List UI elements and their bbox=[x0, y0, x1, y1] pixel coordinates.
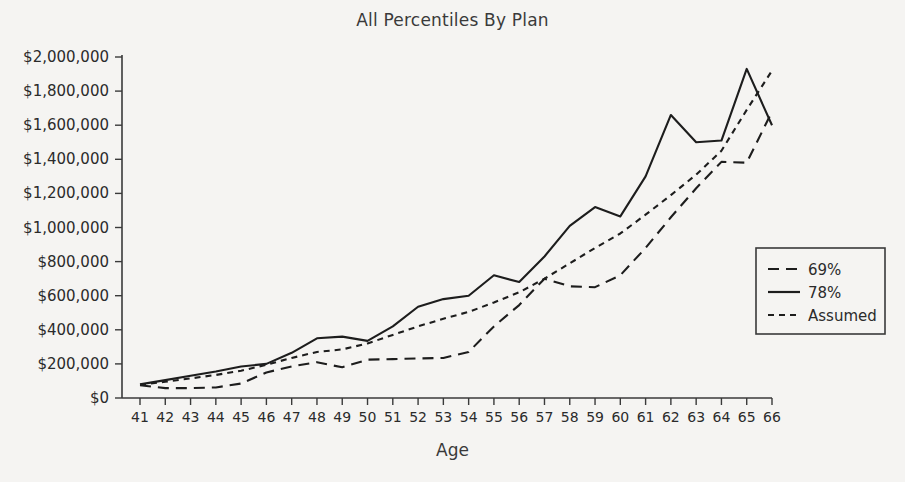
x-tick-label: 42 bbox=[156, 409, 174, 425]
x-tick-label: 54 bbox=[460, 409, 478, 425]
y-tick-label: $1,800,000 bbox=[23, 82, 109, 100]
series-line-69- bbox=[140, 112, 772, 389]
y-tick-label: $1,000,000 bbox=[23, 219, 109, 237]
x-tick-label: 45 bbox=[232, 409, 250, 425]
x-tick-label: 57 bbox=[536, 409, 554, 425]
series-line-78- bbox=[140, 69, 772, 384]
y-tick-label: $1,600,000 bbox=[23, 116, 109, 134]
legend-label-78-[interactable]: 78% bbox=[808, 284, 841, 302]
x-tick-label: 55 bbox=[485, 409, 503, 425]
y-tick-label: $2,000,000 bbox=[23, 48, 109, 66]
x-tick-label: 56 bbox=[510, 409, 528, 425]
line-chart: $0$200,000$400,000$600,000$800,000$1,000… bbox=[0, 0, 905, 482]
legend-label-assumed[interactable]: Assumed bbox=[808, 307, 877, 325]
x-tick-label: 41 bbox=[131, 409, 149, 425]
series-group bbox=[140, 69, 772, 388]
chart-container: All Percentiles By Plan $0$200,000$400,0… bbox=[0, 0, 905, 482]
y-axis-tick-group: $0$200,000$400,000$600,000$800,000$1,000… bbox=[23, 48, 122, 407]
x-tick-label: 48 bbox=[308, 409, 326, 425]
x-tick-label: 59 bbox=[586, 409, 604, 425]
x-tick-label: 43 bbox=[182, 409, 200, 425]
x-tick-label: 44 bbox=[207, 409, 225, 425]
x-tick-label: 63 bbox=[687, 409, 705, 425]
x-axis-tick-group: 4142434445464748495051525354555657585960… bbox=[131, 398, 781, 425]
legend-label-69-[interactable]: 69% bbox=[808, 261, 841, 279]
x-tick-label: 49 bbox=[333, 409, 351, 425]
chart-legend[interactable]: 69%78%Assumed bbox=[756, 248, 885, 334]
x-tick-label: 46 bbox=[257, 409, 275, 425]
x-tick-label: 51 bbox=[384, 409, 402, 425]
x-tick-label: 47 bbox=[283, 409, 301, 425]
x-tick-label: 60 bbox=[611, 409, 629, 425]
y-tick-label: $1,400,000 bbox=[23, 150, 109, 168]
x-axis-label: Age bbox=[0, 440, 905, 460]
y-tick-label: $600,000 bbox=[37, 287, 109, 305]
x-tick-label: 61 bbox=[637, 409, 655, 425]
y-tick-label: $0 bbox=[90, 389, 109, 407]
x-tick-label: 52 bbox=[409, 409, 427, 425]
y-tick-label: $200,000 bbox=[37, 355, 109, 373]
x-tick-label: 58 bbox=[561, 409, 579, 425]
x-tick-label: 62 bbox=[662, 409, 680, 425]
series-line-assumed bbox=[140, 71, 772, 385]
x-tick-label: 64 bbox=[713, 409, 731, 425]
y-tick-label: $400,000 bbox=[37, 321, 109, 339]
x-tick-label: 50 bbox=[359, 409, 377, 425]
y-tick-label: $800,000 bbox=[37, 253, 109, 271]
x-tick-label: 65 bbox=[738, 409, 756, 425]
y-tick-label: $1,200,000 bbox=[23, 184, 109, 202]
x-tick-label: 66 bbox=[763, 409, 781, 425]
x-tick-label: 53 bbox=[434, 409, 452, 425]
